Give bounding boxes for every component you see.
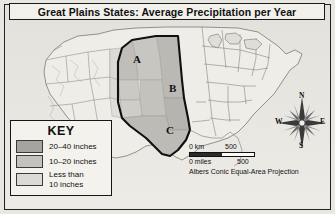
title-bar: Great Plains States: Average Precipitati… (9, 3, 325, 20)
legend-row: 20–40 inches (16, 140, 111, 153)
compass-west-label: W (275, 117, 283, 126)
compass-rose: N E S W (273, 92, 331, 154)
scale-miles-zero: 0 miles (189, 158, 211, 165)
compass-south-label: S (299, 141, 303, 150)
projection-label: Albers Conic Equal-Area Projection (189, 168, 319, 175)
legend-swatch-10-20 (16, 155, 43, 168)
compass-east-label: E (320, 117, 325, 126)
region-label-a: A (133, 53, 141, 65)
legend-heading: KEY (11, 124, 111, 138)
map-title: Great Plains States: Average Precipitati… (38, 6, 297, 18)
scale-bar-graphic (189, 152, 255, 157)
scale-bar-filled (190, 153, 222, 156)
region-label-c: C (166, 124, 174, 136)
scale-miles-max: 500 (237, 158, 249, 165)
legend-swatch-20-40 (16, 140, 43, 153)
map-figure: A B C Great Plains States: Average Preci… (0, 0, 335, 214)
compass-north-label: N (299, 91, 304, 100)
legend-row: 10–20 inches (16, 155, 111, 168)
scale-km-zero: 0 km (189, 143, 204, 150)
scale-km-max: 500 (225, 143, 237, 150)
scale-bar-empty (222, 153, 254, 156)
legend-row: Less than 10 inches (16, 170, 111, 189)
map-legend: KEY 20–40 inches 10–20 inches Less than … (10, 120, 112, 196)
legend-swatch-lt-10 (16, 173, 43, 186)
scale-miles-labels: 0 miles 500 (189, 158, 319, 167)
legend-label-lt-10: Less than 10 inches (49, 170, 84, 189)
legend-label-10-20: 10–20 inches (49, 157, 97, 167)
legend-label-20-40: 20–40 inches (49, 142, 97, 152)
region-label-b: B (169, 82, 176, 94)
